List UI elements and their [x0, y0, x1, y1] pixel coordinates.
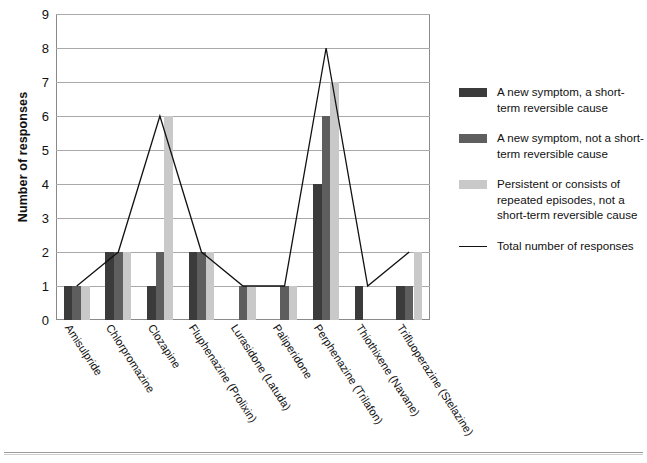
- y-tick-label: 4: [42, 178, 49, 191]
- x-tick-label: Amisulpride: [63, 322, 105, 378]
- x-tick-label: Clozapine: [146, 322, 183, 370]
- legend-item: Persistent or consists of repeated episo…: [459, 176, 645, 223]
- y-tick-label: 3: [42, 212, 49, 225]
- y-tick-label: 8: [42, 42, 49, 55]
- legend-item: A new symptom, a short-term reversible c…: [459, 84, 645, 115]
- x-tick-label: Trifluoperazine (Stelazine): [395, 322, 476, 438]
- legend-line-swatch: [459, 242, 487, 251]
- footer-divider: [4, 452, 643, 453]
- legend-label: Persistent or consists of repeated episo…: [497, 176, 645, 223]
- legend-label: A new symptom, a short-term reversible c…: [497, 84, 645, 115]
- footer-divider-shadow: [4, 454, 643, 455]
- x-tick-label: Paliperidone: [270, 322, 314, 381]
- y-tick-label: 7: [42, 76, 49, 89]
- legend-color-swatch: [459, 180, 487, 189]
- plot-area: 0123456789: [56, 14, 430, 320]
- bar-chart-figure: Number of responses 0123456789 Amisulpri…: [0, 0, 647, 463]
- legend-item: Total number of responses: [459, 238, 645, 254]
- legend-label: A new symptom, not a short-term reversib…: [497, 130, 645, 161]
- y-tick-label: 2: [42, 246, 49, 259]
- legend-label: Total number of responses: [497, 238, 634, 254]
- y-tick-label: 6: [42, 110, 49, 123]
- chart-legend: A new symptom, a short-term reversible c…: [459, 84, 645, 268]
- y-axis-title: Number of responses: [16, 62, 30, 252]
- y-tick-label: 5: [42, 144, 49, 157]
- total-responses-line: [56, 14, 430, 320]
- legend-item: A new symptom, not a short-term reversib…: [459, 130, 645, 161]
- y-tick-label: 1: [42, 280, 49, 293]
- legend-color-swatch: [459, 88, 487, 97]
- y-tick-label: 9: [42, 8, 49, 21]
- x-axis-labels: AmisulprideChlorpromazineClozapineFluphe…: [56, 322, 430, 450]
- legend-color-swatch: [459, 134, 487, 143]
- y-tick-label: 0: [42, 314, 49, 327]
